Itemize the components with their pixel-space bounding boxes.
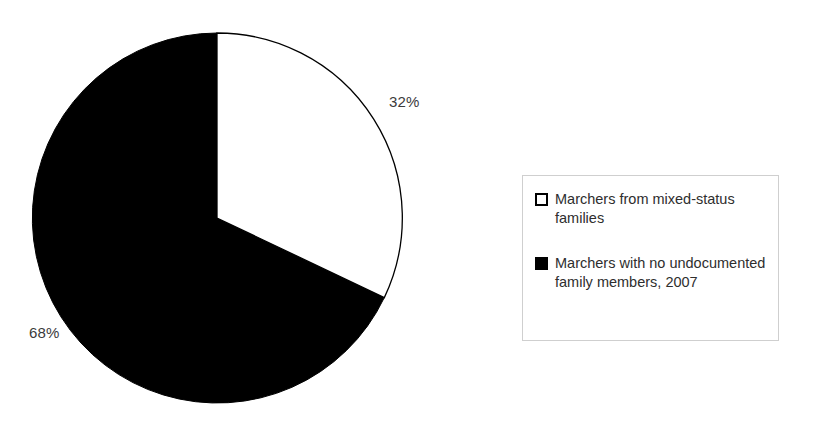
pie-chart-screenshot: 32% 68% Marchers from mixed-status famil… xyxy=(0,0,815,421)
legend-item-label: Marchers with no undocumented family mem… xyxy=(555,254,768,292)
pie-chart-plot-area: 32% 68% xyxy=(0,0,470,421)
legend-swatch-filled-square-icon xyxy=(535,257,548,270)
pie-data-label-no-undocumented: 68% xyxy=(29,324,60,341)
pie-data-label-mixed-status: 32% xyxy=(389,93,420,110)
legend-item-label: Marchers from mixed-status families xyxy=(555,190,768,228)
legend-item-mixed-status[interactable]: Marchers from mixed-status families xyxy=(535,190,768,228)
legend-swatch-hollow-square-icon xyxy=(535,193,548,206)
legend-item-no-undocumented[interactable]: Marchers with no undocumented family mem… xyxy=(535,254,768,292)
pie-chart-graphic xyxy=(28,29,406,407)
chart-legend: Marchers from mixed-status families Marc… xyxy=(522,175,779,341)
